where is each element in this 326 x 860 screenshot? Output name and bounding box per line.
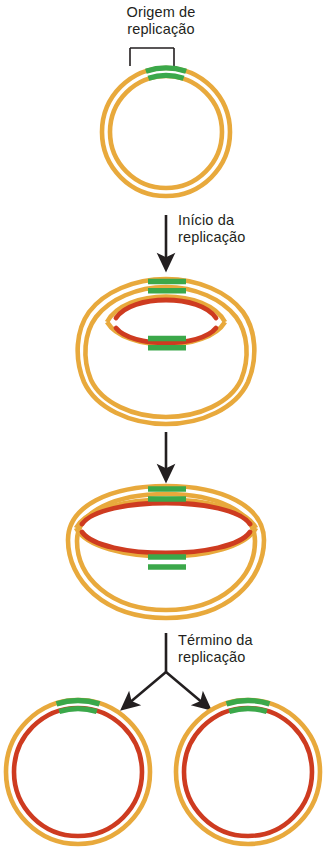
origin-segment-outer: [146, 68, 186, 71]
origin-segment-right-daughter-outer: [227, 701, 270, 704]
origin-segment-inner: [148, 75, 183, 78]
diagram-canvas: [0, 0, 326, 860]
new-strand-right-daughter: [184, 708, 312, 836]
origin-bracket-icon: [130, 48, 174, 66]
stage-3-theta-structure: [68, 486, 264, 618]
origin-segment-left-daughter-inner: [59, 709, 97, 712]
initiation-label: Início da replicação: [178, 212, 308, 246]
origin-segment-right-daughter-inner: [229, 709, 267, 712]
origin-segment-left-daughter-outer: [57, 701, 100, 704]
inner-parental-strand: [110, 76, 222, 188]
daughter-chromosome-left: [6, 700, 150, 844]
origin-label: Origem de replicação: [76, 4, 246, 38]
replication-diagram: Origem de replicação: [0, 0, 326, 860]
new-strand-left-daughter: [14, 708, 142, 836]
outer-parental-strand: [102, 68, 230, 196]
parental-strand-right-daughter: [176, 700, 320, 844]
stage-2-replication-bubble: [78, 279, 255, 424]
daughter-chromosome-right: [176, 700, 320, 844]
parental-strand-left-daughter: [6, 700, 150, 844]
stage-1-circular-chromosome: [102, 68, 230, 196]
termination-label: Término da replicação: [178, 632, 318, 666]
inner-parental-strand-stage2: [85, 287, 246, 417]
stage-4-daughter-chromosomes: [6, 700, 320, 844]
